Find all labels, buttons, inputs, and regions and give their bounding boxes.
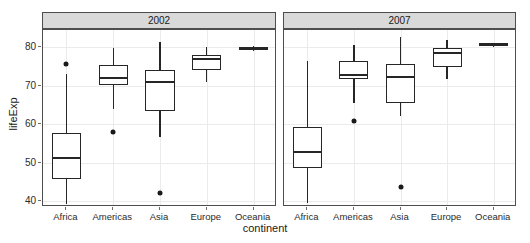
- boxplot-median-line: [52, 157, 81, 159]
- y-axis-tick-label: 70: [14, 79, 36, 90]
- boxplot-whisker-lower: [206, 70, 207, 82]
- x-axis-title: continent: [0, 222, 530, 234]
- boxplot-median-line: [239, 47, 268, 49]
- boxplot-box: [339, 61, 368, 79]
- boxplot-whisker-lower: [159, 111, 160, 136]
- boxplot-whisker-lower: [307, 168, 308, 203]
- x-axis-tick-label: Europe: [190, 211, 221, 222]
- y-axis-tick-labels: 4050607080: [14, 0, 36, 243]
- boxplot-whisker-upper: [159, 42, 160, 70]
- boxplot-box: [52, 133, 81, 179]
- boxplot-box: [192, 55, 221, 70]
- y-axis-tick-label: 60: [14, 118, 36, 129]
- y-axis-tick-label: 80: [14, 41, 36, 52]
- boxplot-whisker-upper: [206, 47, 207, 54]
- boxplot-median-line: [192, 58, 221, 60]
- boxplot-whisker-lower: [353, 79, 354, 103]
- boxplot-median-line: [99, 77, 128, 79]
- x-axis-tick-mark: [65, 207, 66, 210]
- gridline-horizontal: [43, 201, 275, 202]
- y-axis-tick-mark: [38, 200, 41, 201]
- boxplot-outlier-point: [64, 61, 69, 66]
- boxplot-box: [99, 65, 128, 85]
- y-axis-tick-mark: [38, 123, 41, 124]
- boxplot-outlier-point: [398, 184, 403, 189]
- facet-strip-label: 2002: [148, 16, 170, 26]
- boxplot-whisker-upper: [353, 45, 354, 62]
- boxplot-median-line: [386, 76, 415, 78]
- boxplot-whisker-lower: [66, 179, 67, 205]
- x-axis-tick-label: Asia: [390, 211, 408, 222]
- x-axis-tick-mark: [353, 207, 354, 210]
- x-axis-tick-mark: [400, 207, 401, 210]
- boxplot-median-line: [293, 151, 322, 153]
- y-axis-tick-mark: [38, 162, 41, 163]
- boxplot-outlier-point: [351, 118, 356, 123]
- panel-plot-area: [42, 29, 276, 206]
- x-axis-tick-mark: [446, 207, 447, 210]
- panel-plot-area: [283, 29, 516, 206]
- x-axis-tick-mark: [493, 207, 494, 210]
- boxplot-whisker-upper: [113, 48, 114, 65]
- gridline-vertical: [254, 30, 255, 205]
- boxplot-box: [386, 64, 415, 103]
- boxplot-figure: lifeExp 4050607080 20022007 continent Af…: [0, 0, 530, 243]
- boxplot-whisker-lower: [113, 85, 114, 109]
- gridline-horizontal: [284, 124, 515, 125]
- x-axis-tick-label: Africa: [294, 211, 318, 222]
- boxplot-whisker-lower: [253, 50, 254, 51]
- facet-panel: 2007: [283, 12, 516, 206]
- boxplot-whisker-lower: [400, 103, 401, 116]
- boxplot-outlier-point: [158, 191, 163, 196]
- boxplot-whisker-lower: [493, 46, 494, 47]
- boxplot-whisker-upper: [66, 74, 67, 132]
- boxplot-outlier-point: [111, 129, 116, 134]
- x-axis-tick-mark: [112, 207, 113, 210]
- boxplot-whisker-upper: [446, 40, 447, 48]
- boxplot-box: [145, 70, 174, 112]
- x-axis-tick-label: Americas: [92, 211, 132, 222]
- facet-strip: 2007: [283, 12, 516, 29]
- boxplot-whisker-upper: [307, 61, 308, 126]
- boxplot-whisker-upper: [400, 37, 401, 64]
- x-axis-tick-mark: [306, 207, 307, 210]
- facet-panel: 2002: [42, 12, 276, 206]
- boxplot-median-line: [145, 81, 174, 83]
- x-axis-tick-label: Oceania: [235, 211, 270, 222]
- x-axis-tick-label: Asia: [150, 211, 168, 222]
- facet-strip: 2002: [42, 12, 276, 29]
- y-axis-tick-mark: [38, 46, 41, 47]
- boxplot-box: [293, 127, 322, 169]
- x-axis-tick-label: Africa: [53, 211, 77, 222]
- boxplot-median-line: [479, 44, 508, 46]
- boxplot-whisker-lower: [446, 67, 447, 79]
- x-axis-tick-label: Americas: [333, 211, 373, 222]
- y-axis-tick-label: 40: [14, 195, 36, 206]
- x-axis-tick-mark: [253, 207, 254, 210]
- boxplot-median-line: [339, 74, 368, 76]
- boxplot-median-line: [433, 52, 462, 54]
- x-axis-tick-label: Europe: [431, 211, 462, 222]
- y-axis-tick-label: 50: [14, 156, 36, 167]
- facet-strip-label: 2007: [388, 16, 410, 26]
- x-axis-tick-mark: [206, 207, 207, 210]
- x-axis-tick-label: Oceania: [475, 211, 510, 222]
- x-axis-tick-mark: [159, 207, 160, 210]
- gridline-horizontal: [284, 201, 515, 202]
- gridline-vertical: [494, 30, 495, 205]
- y-axis-tick-mark: [38, 85, 41, 86]
